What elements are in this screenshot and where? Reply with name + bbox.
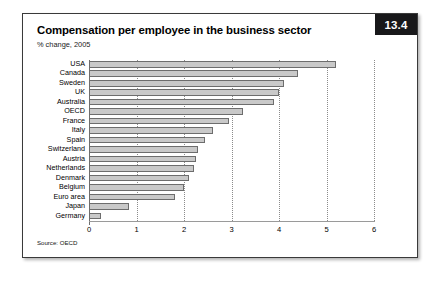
bar-row: Switzerland xyxy=(89,145,374,154)
plot-area: USACanadaSwedenUKAustraliaOECDFranceItal… xyxy=(89,60,374,221)
bar-row: France xyxy=(89,117,374,126)
y-axis-category-label: Germany xyxy=(55,211,85,221)
x-axis-baseline xyxy=(89,221,375,222)
bar xyxy=(89,175,189,182)
chart-subtitle: % change, 2005 xyxy=(37,40,90,49)
bar-row: Denmark xyxy=(89,174,374,183)
bar xyxy=(89,194,175,201)
bar-row: Italy xyxy=(89,126,374,135)
x-axis-tick-label: 2 xyxy=(182,225,186,234)
figure-panel: 13.4 Compensation per employee in the bu… xyxy=(22,13,418,258)
x-axis-tick-label: 6 xyxy=(372,225,376,234)
bar xyxy=(89,61,336,68)
bar xyxy=(89,127,213,134)
source-note: Source: OECD xyxy=(37,239,77,246)
bar xyxy=(89,137,205,144)
bar xyxy=(89,184,184,191)
bar-row: Spain xyxy=(89,136,374,145)
bar xyxy=(89,156,196,163)
bar-row: Netherlands xyxy=(89,164,374,173)
bar xyxy=(89,80,284,87)
bar xyxy=(89,146,198,153)
x-axis-tick-label: 0 xyxy=(87,225,91,234)
bar xyxy=(89,213,101,220)
bar-row: USA xyxy=(89,60,374,69)
page-title: Compensation per employee in the busines… xyxy=(37,24,311,36)
bar-row: Australia xyxy=(89,98,374,107)
x-axis-tick-label: 3 xyxy=(229,225,233,234)
x-axis-tick-label: 4 xyxy=(277,225,281,234)
bar-row: Germany xyxy=(89,212,374,221)
bar-row: UK xyxy=(89,88,374,97)
bar-row: Belgium xyxy=(89,183,374,192)
bar xyxy=(89,89,279,96)
bar-row: Sweden xyxy=(89,79,374,88)
x-axis-tick-label: 1 xyxy=(134,225,138,234)
bar xyxy=(89,203,129,210)
x-axis-tick-label: 5 xyxy=(324,225,328,234)
bar xyxy=(89,108,243,115)
bar xyxy=(89,70,298,77)
figure-number-badge: 13.4 xyxy=(375,14,417,35)
bar xyxy=(89,165,194,172)
bar xyxy=(89,118,229,125)
x-gridline xyxy=(374,60,375,221)
bar-row: Austria xyxy=(89,155,374,164)
bar xyxy=(89,99,274,106)
bar-row: OECD xyxy=(89,107,374,116)
bar-row: Canada xyxy=(89,69,374,78)
bar-row: Euro area xyxy=(89,193,374,202)
bar-row: Japan xyxy=(89,202,374,211)
